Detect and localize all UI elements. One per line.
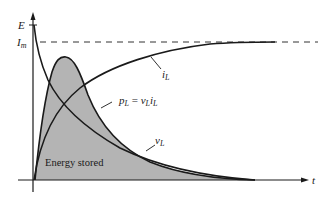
inductor-energy-diagram: E Im t iL pL = vLiL vL Energy stored — [0, 0, 330, 205]
power-label: pL = vLiL — [118, 94, 158, 108]
x-axis-arrow-icon — [301, 178, 309, 183]
y-axis-label: E — [17, 19, 25, 31]
pl-leader — [101, 102, 112, 108]
current-label: iL — [162, 68, 170, 82]
im-label: Im — [16, 36, 27, 50]
energy-stored-label: Energy stored — [45, 157, 104, 168]
vl-leader — [146, 145, 155, 151]
y-axis-arrow-icon — [31, 12, 36, 20]
voltage-label: vL — [155, 134, 165, 148]
il-leader — [151, 57, 161, 69]
x-axis-label: t — [312, 174, 316, 186]
